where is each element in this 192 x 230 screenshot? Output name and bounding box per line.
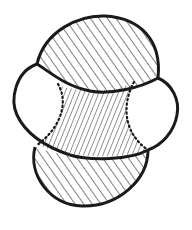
right-bulge-outline <box>148 78 178 150</box>
diagram-canvas <box>0 0 192 230</box>
top-dome-region <box>37 16 158 92</box>
shape-diagram <box>0 0 192 230</box>
center-waist-region <box>38 83 148 156</box>
